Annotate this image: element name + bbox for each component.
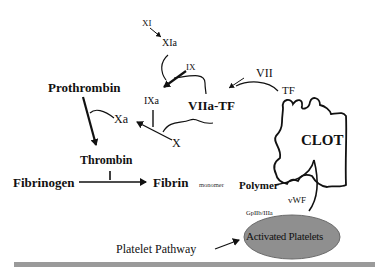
node-vwf: vWF [288,196,306,205]
node-xa: Xa [114,113,128,125]
node-ixa: IXa [144,96,159,106]
node-xia: XIa [162,38,177,48]
node-platelet-pathway: Platelet Pathway [116,243,196,255]
arrow-vii-to-viiatf [229,78,244,88]
curve-xa-catalyzes [90,110,114,118]
node-tf: TF [282,85,295,96]
arrow-prothrombin-to-thrombin [83,97,96,145]
arrow-platelet-pathway [215,240,239,249]
node-monomer: monomer [199,182,224,189]
arrow-ix-to-ixa [164,71,186,87]
node-vii: VII [256,67,273,79]
arrow-xi-to-xia [150,28,161,37]
curve-xia-catalyzes [162,55,168,80]
node-gpiib-iiia: GpIIb/IIIa [246,210,273,217]
curve-viiatf-to-x [163,119,213,132]
curve-viiatf-to-ix [174,76,206,94]
footer-divider-bar [14,262,375,267]
node-viia-tf: VIIa-TF [188,99,235,112]
node-fibrin: Fibrin [153,176,188,189]
node-x: X [172,137,181,149]
node-activated-platelets: Activated Platelets [246,231,323,242]
node-polymer: Polymer [239,180,279,191]
curve-tf-joins [236,82,278,91]
coagulation-diagram: XI XIa IX IXa VII TF VIIa-TF X Xa Prothr… [0,0,375,273]
node-ix: IX [186,63,196,72]
node-thrombin: Thrombin [80,154,132,166]
node-clot: CLOT [301,133,344,148]
node-fibrinogen: Fibrinogen [13,176,74,189]
node-xi: XI [142,19,152,28]
node-prothrombin: Prothrombin [48,81,120,94]
arrow-x-to-xa [137,122,172,140]
